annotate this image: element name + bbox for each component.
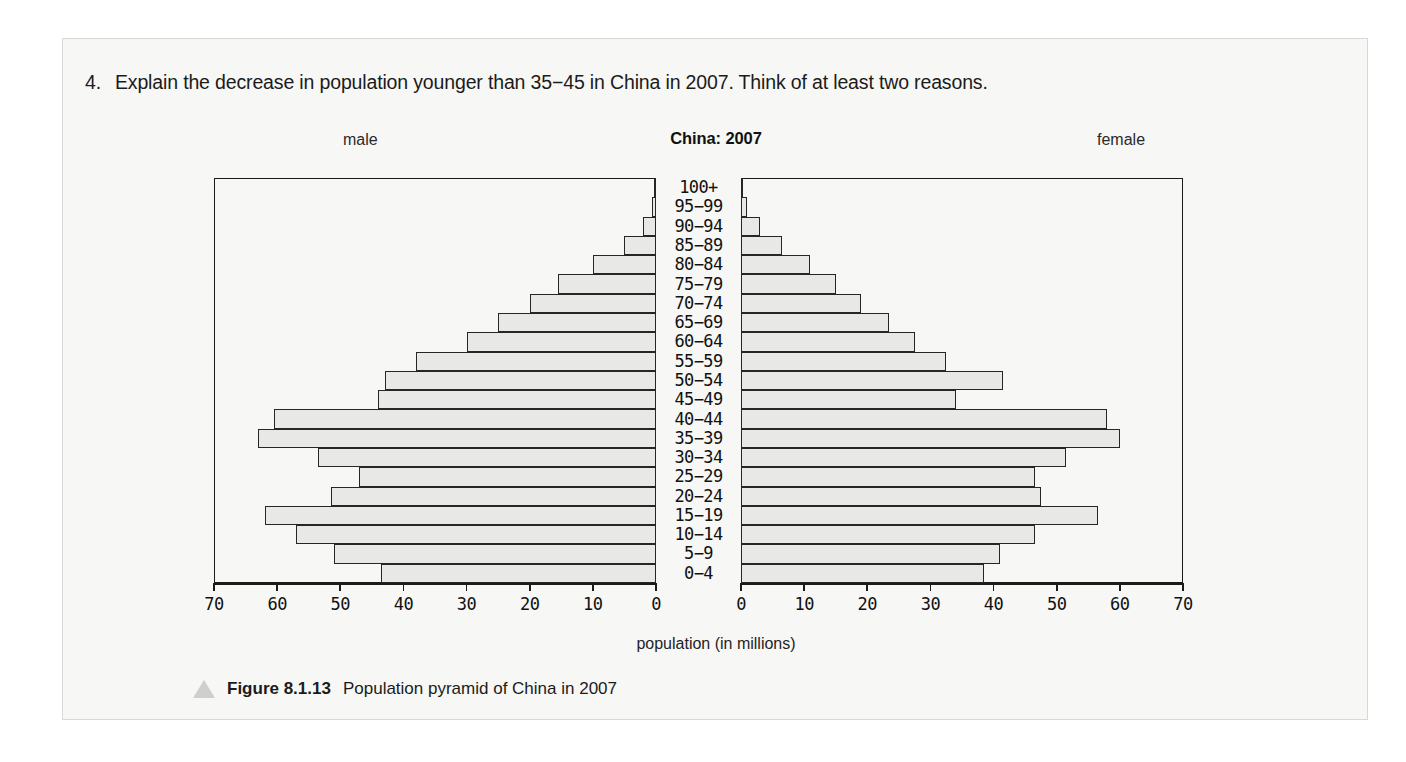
chart-title: China: 2007 — [63, 129, 1369, 148]
page-root: 4. Explain the decrease in population yo… — [0, 0, 1406, 762]
axis-tick-label: 70 — [204, 594, 223, 614]
axis-tick-label: 10 — [794, 594, 813, 614]
axis-line-right — [741, 583, 1183, 585]
axis-tick-label: 70 — [1173, 594, 1192, 614]
axis-tick — [866, 583, 868, 591]
x-axis-title: population (in millions) — [63, 635, 1369, 653]
plot-frame — [214, 178, 1183, 583]
figure-number: Figure 8.1.13 — [227, 679, 331, 699]
axis-tick-label: 20 — [520, 594, 539, 614]
figure-caption-text: Population pyramid of China in 2007 — [343, 679, 617, 699]
x-axis-area: 706050403020100 010203040506070 — [214, 583, 1183, 629]
axis-tick — [655, 583, 657, 591]
worksheet-card: 4. Explain the decrease in population yo… — [62, 38, 1368, 720]
axis-tick-label: 10 — [583, 594, 602, 614]
axis-tick — [1119, 583, 1121, 591]
axis-tick — [592, 583, 594, 591]
axis-tick-label: 40 — [394, 594, 413, 614]
triangle-icon — [193, 680, 215, 698]
axis-tick-label: 60 — [1110, 594, 1129, 614]
axis-line-left — [214, 583, 656, 585]
axis-tick — [930, 583, 932, 591]
axis-tick-label: 30 — [457, 594, 476, 614]
axis-tick — [276, 583, 278, 591]
axis-tick — [339, 583, 341, 591]
axis-tick — [403, 583, 405, 591]
axis-tick-label: 0 — [736, 594, 746, 614]
axis-tick-label: 50 — [1047, 594, 1066, 614]
female-side-label: female — [1097, 131, 1145, 149]
x-axis-left: 706050403020100 — [214, 583, 656, 629]
axis-tick-label: 40 — [984, 594, 1003, 614]
axis-tick — [740, 583, 742, 591]
axis-tick — [1182, 583, 1184, 591]
population-pyramid-chart: male China: 2007 female 100+95−9990−9485… — [63, 39, 1369, 721]
axis-tick — [529, 583, 531, 591]
axis-tick — [803, 583, 805, 591]
figure-caption: Figure 8.1.13 Population pyramid of Chin… — [193, 679, 617, 699]
axis-tick-label: 30 — [921, 594, 940, 614]
axis-tick-label: 20 — [858, 594, 877, 614]
axis-tick-label: 0 — [651, 594, 661, 614]
axis-tick-label: 60 — [267, 594, 286, 614]
axis-tick — [993, 583, 995, 591]
axis-tick — [1056, 583, 1058, 591]
axis-tick — [466, 583, 468, 591]
x-axis-right: 010203040506070 — [741, 583, 1183, 629]
axis-tick — [213, 583, 215, 591]
axis-tick-label: 50 — [331, 594, 350, 614]
